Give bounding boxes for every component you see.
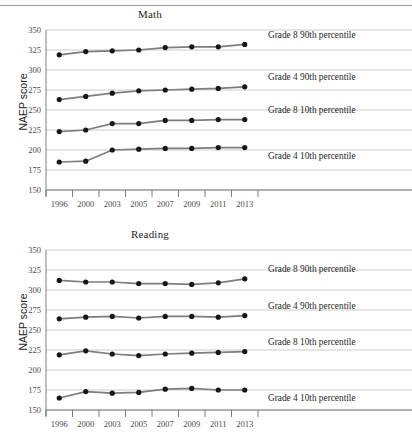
data-point-s0-2003 [110, 48, 115, 53]
data-point-s2-2007 [163, 118, 168, 123]
series-label-2: Grade 8 10th percentile [268, 337, 356, 347]
y-tick-label-350: 350 [28, 245, 41, 255]
series-label-2: Grade 8 10th percentile [268, 105, 356, 115]
data-point-s3-1996 [57, 395, 62, 400]
x-tick-label-2009: 2009 [183, 199, 200, 209]
data-point-s2-1996 [57, 129, 62, 134]
y-tick-label-150: 150 [28, 405, 41, 415]
data-point-s2-2000 [83, 127, 88, 132]
data-point-s0-2013 [242, 276, 247, 281]
series-label-3: Grade 4 10th percentile [268, 151, 356, 161]
data-point-s1-2013 [242, 84, 247, 89]
x-tick-label-2013: 2013 [236, 419, 253, 429]
data-point-s1-2000 [83, 315, 88, 320]
series-label-3: Grade 4 10th percentile [268, 393, 356, 403]
y-tick-label-175: 175 [28, 385, 41, 395]
data-point-s0-1996 [57, 52, 62, 57]
data-point-s0-2009 [189, 44, 194, 49]
data-point-s0-2009 [189, 282, 194, 287]
data-point-s3-2011 [216, 145, 221, 150]
data-point-s0-2003 [110, 279, 115, 284]
x-tick-label-2000: 2000 [77, 419, 94, 429]
data-point-s2-2009 [189, 118, 194, 123]
series-label-0: Grade 8 90th percentile [268, 30, 356, 40]
data-point-s1-2009 [189, 87, 194, 92]
y-tick-label-300: 300 [28, 285, 41, 295]
x-tick-label-2007: 2007 [157, 419, 174, 429]
data-point-s1-2011 [216, 315, 221, 320]
chart-title-reading: Reading [0, 228, 300, 240]
y-tick-label-300: 300 [28, 65, 41, 75]
data-point-s2-2013 [242, 117, 247, 122]
data-point-s2-1996 [57, 352, 62, 357]
data-point-s1-2013 [242, 313, 247, 318]
data-point-s3-2013 [242, 145, 247, 150]
x-tick-label-2003: 2003 [104, 419, 121, 429]
data-point-s2-2005 [136, 353, 141, 358]
data-point-s0-2011 [216, 280, 221, 285]
data-point-s3-2003 [110, 147, 115, 152]
data-point-s0-2007 [163, 45, 168, 50]
data-point-s2-2000 [83, 348, 88, 353]
figure-root: Math NAEP score 150175200225250275300325… [0, 0, 412, 441]
y-tick-label-250: 250 [28, 105, 41, 115]
y-tick-label-325: 325 [28, 45, 41, 55]
data-point-s0-2000 [83, 279, 88, 284]
x-tick-label-2011: 2011 [210, 419, 227, 429]
x-tick-label-2009: 2009 [183, 419, 200, 429]
data-point-s2-2003 [110, 121, 115, 126]
data-point-s3-2005 [136, 147, 141, 152]
chart-svg-reading: 1501752002252502753003253501996200020032… [0, 242, 412, 438]
x-tick-label-1996: 1996 [51, 419, 68, 429]
data-point-s1-2007 [163, 314, 168, 319]
data-point-s2-2013 [242, 349, 247, 354]
data-point-s1-2003 [110, 314, 115, 319]
x-tick-label-2000: 2000 [77, 199, 94, 209]
data-point-s3-2009 [189, 146, 194, 151]
y-tick-label-350: 350 [28, 25, 41, 35]
x-tick-label-2005: 2005 [130, 199, 147, 209]
data-point-s3-2005 [136, 390, 141, 395]
top-divider-rule [0, 5, 412, 6]
y-tick-label-325: 325 [28, 265, 41, 275]
series-label-1: Grade 4 90th percentile [268, 72, 356, 82]
data-point-s1-2005 [136, 88, 141, 93]
y-tick-label-225: 225 [28, 345, 41, 355]
data-point-s2-2007 [163, 351, 168, 356]
data-point-s1-1996 [57, 316, 62, 321]
data-point-s3-2007 [163, 146, 168, 151]
data-point-s2-2003 [110, 351, 115, 356]
data-point-s3-2013 [242, 387, 247, 392]
data-point-s2-2009 [189, 351, 194, 356]
data-point-s2-2005 [136, 121, 141, 126]
y-tick-label-175: 175 [28, 165, 41, 175]
data-point-s3-2007 [163, 387, 168, 392]
y-tick-label-200: 200 [28, 365, 41, 375]
y-tick-label-150: 150 [28, 185, 41, 195]
x-tick-label-2005: 2005 [130, 419, 147, 429]
data-point-s3-2009 [189, 386, 194, 391]
x-tick-label-1996: 1996 [51, 199, 68, 209]
chart-svg-math: 1501752002252502753003253501996200020032… [0, 22, 412, 218]
data-point-s1-2007 [163, 87, 168, 92]
data-point-s0-2005 [136, 281, 141, 286]
x-tick-label-2003: 2003 [104, 199, 121, 209]
data-point-s2-2011 [216, 117, 221, 122]
data-point-s3-2000 [83, 389, 88, 394]
data-point-s0-2011 [216, 44, 221, 49]
data-point-s2-2011 [216, 350, 221, 355]
plot-area-reading: 1501752002252502753003253501996200020032… [0, 242, 412, 438]
data-point-s0-2007 [163, 281, 168, 286]
y-tick-label-275: 275 [28, 85, 41, 95]
x-tick-label-2007: 2007 [157, 199, 174, 209]
data-point-s1-2011 [216, 86, 221, 91]
data-point-s3-1996 [57, 159, 62, 164]
data-point-s1-2003 [110, 91, 115, 96]
data-point-s0-2000 [83, 49, 88, 54]
series-label-0: Grade 8 90th percentile [268, 264, 356, 274]
data-point-s3-2011 [216, 387, 221, 392]
data-point-s1-1996 [57, 97, 62, 102]
data-point-s1-2005 [136, 315, 141, 320]
y-tick-label-275: 275 [28, 305, 41, 315]
y-tick-label-200: 200 [28, 145, 41, 155]
